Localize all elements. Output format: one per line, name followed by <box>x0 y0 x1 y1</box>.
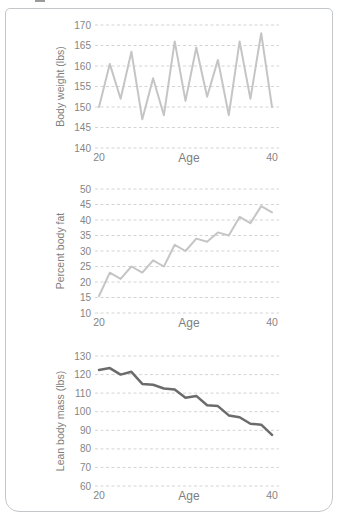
x-tick-label: 20 <box>93 151 105 163</box>
figure-card: 1701651601551501451402040AgeBody weight … <box>5 8 333 512</box>
y-tick-label: 45 <box>80 199 92 210</box>
lean-body-mass-chart: 130120110100908070602040AgeLean body mas… <box>51 347 289 512</box>
percent-body-fat-plot: 5045403530252015102040AgePercent body fa… <box>51 179 289 339</box>
body-weight-chart: 1701651601551501451402040AgeBody weight … <box>51 15 289 174</box>
x-axis-title: Age <box>178 489 200 503</box>
y-tick-label: 30 <box>80 246 92 257</box>
percent-body-fat-chart: 5045403530252015102040AgePercent body fa… <box>51 179 289 339</box>
x-axis-title: Age <box>178 316 200 330</box>
y-tick-label: 50 <box>80 184 92 195</box>
y-tick-label: 155 <box>74 81 91 92</box>
x-tick-label: 40 <box>266 316 278 328</box>
y-axis-title: Percent body fat <box>54 213 66 290</box>
y-tick-label: 170 <box>74 20 91 31</box>
x-axis-title: Age <box>178 151 200 165</box>
y-tick-label: 145 <box>74 122 91 133</box>
y-tick-label: 10 <box>80 308 92 319</box>
y-tick-label: 35 <box>80 230 92 241</box>
y-tick-label: 40 <box>80 215 92 226</box>
y-tick-label: 120 <box>74 369 91 380</box>
y-tick-label: 60 <box>80 481 92 492</box>
figure-page: 1701651601551501451402040AgeBody weight … <box>0 0 340 519</box>
y-tick-label: 140 <box>74 143 91 154</box>
y-tick-label: 100 <box>74 406 91 417</box>
x-tick-label: 40 <box>266 489 278 501</box>
lean-body-mass-plot: 130120110100908070602040AgeLean body mas… <box>51 347 289 512</box>
y-tick-label: 90 <box>80 425 92 436</box>
y-tick-label: 110 <box>75 388 91 399</box>
body-weight-plot: 1701651601551501451402040AgeBody weight … <box>51 15 289 174</box>
y-tick-label: 15 <box>80 292 92 303</box>
y-tick-label: 160 <box>74 61 91 72</box>
y-axis-title: Lean body mass (lbs) <box>54 371 66 471</box>
y-tick-label: 80 <box>80 443 92 454</box>
x-tick-label: 20 <box>93 489 105 501</box>
cropped-text-fragment <box>35 0 45 2</box>
y-tick-label: 70 <box>80 462 92 473</box>
y-tick-label: 165 <box>74 40 91 51</box>
y-tick-label: 20 <box>80 277 92 288</box>
lean-body-mass-line <box>99 368 272 435</box>
y-tick-label: 130 <box>74 351 91 362</box>
y-tick-label: 25 <box>80 261 92 272</box>
body-weight-line <box>99 33 272 119</box>
x-tick-label: 40 <box>266 151 278 163</box>
x-tick-label: 20 <box>93 316 105 328</box>
y-tick-label: 150 <box>74 102 91 113</box>
y-axis-title: Body weight (lbs) <box>54 46 66 127</box>
